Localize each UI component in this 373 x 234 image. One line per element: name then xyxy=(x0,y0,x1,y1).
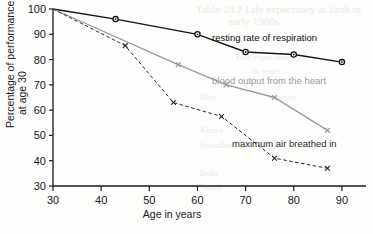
x-tick-label: 70 xyxy=(239,194,251,206)
x-tick-label: 30 xyxy=(47,194,59,206)
x-tick-label: 40 xyxy=(95,194,107,206)
series-line xyxy=(53,9,327,130)
data-series xyxy=(53,9,330,133)
y-tick-label: 90 xyxy=(34,28,46,40)
y-tick-label: 40 xyxy=(34,155,46,167)
x-tick-label: 80 xyxy=(288,194,300,206)
data-point-center xyxy=(197,33,199,35)
series-label: resting rate of respiration xyxy=(212,32,317,43)
series-label: blood output from the heart xyxy=(212,75,326,86)
x-tick-label: 90 xyxy=(336,194,348,206)
y-tick-label: 60 xyxy=(34,104,46,116)
chart-figure: Table 24.2 Life expectancy at birth inea… xyxy=(0,0,373,234)
y-tick-label: 30 xyxy=(34,180,46,192)
y-tick-label: 70 xyxy=(34,79,46,91)
data-point-center xyxy=(293,54,295,56)
x-axis-ticks: 30405060708090 xyxy=(47,186,348,206)
chart-axes xyxy=(53,9,366,186)
y-axis-title-line2: at age 30 xyxy=(16,71,28,115)
x-tick-label: 50 xyxy=(143,194,155,206)
y-axis-ticks: 30405060708090100 xyxy=(28,3,53,192)
x-tick-label: 60 xyxy=(191,194,203,206)
y-tick-label: 80 xyxy=(34,54,46,66)
data-point-center xyxy=(245,51,247,53)
data-point-center xyxy=(115,18,117,20)
y-tick-label: 100 xyxy=(28,3,46,15)
x-axis-title: Age in years xyxy=(143,208,201,220)
y-axis-title-line1: Percentage of performance xyxy=(4,1,16,128)
data-point-marker xyxy=(325,128,330,133)
y-tick-label: 50 xyxy=(34,129,46,141)
line-chart: 30405060708090100 30405060708090 Percent… xyxy=(0,0,373,234)
data-point-marker xyxy=(123,43,128,48)
data-point-marker xyxy=(272,156,277,161)
series-annotations: resting rate of respirationblood output … xyxy=(212,32,337,149)
data-point-center xyxy=(341,61,343,63)
series-label: maximum air breathed in xyxy=(232,138,337,149)
